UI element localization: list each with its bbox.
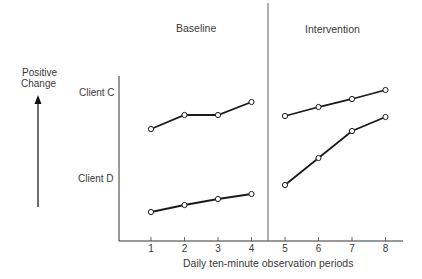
- data-point-marker: [282, 182, 287, 187]
- data-point-marker: [282, 113, 287, 118]
- series-line: [285, 117, 386, 185]
- data-point-marker: [182, 112, 187, 117]
- data-point-marker: [182, 202, 187, 207]
- x-tick-label: 7: [349, 243, 355, 254]
- data-point-marker: [349, 128, 354, 133]
- x-tick-label: 4: [249, 243, 255, 254]
- x-tick-label: 8: [383, 243, 389, 254]
- data-point-marker: [316, 104, 321, 109]
- x-tick-label: 1: [148, 243, 154, 254]
- data-point-marker: [215, 112, 220, 117]
- data-point-marker: [383, 87, 388, 92]
- x-tick-label: 2: [182, 243, 188, 254]
- arrow-up-icon: [35, 95, 42, 104]
- chart-plot-area: [0, 0, 422, 279]
- data-point-marker: [249, 191, 254, 196]
- data-point-marker: [148, 209, 153, 214]
- x-tick-label: 3: [215, 243, 221, 254]
- series-line: [151, 194, 252, 212]
- x-tick-label: 6: [316, 243, 322, 254]
- data-point-marker: [249, 99, 254, 104]
- data-point-marker: [316, 155, 321, 160]
- data-point-marker: [215, 196, 220, 201]
- series-line: [285, 90, 386, 116]
- series-line: [151, 102, 252, 129]
- x-tick-label: 5: [282, 243, 288, 254]
- x-axis-label: Daily ten-minute observation periods: [183, 257, 353, 269]
- data-point-marker: [148, 126, 153, 131]
- data-point-marker: [349, 96, 354, 101]
- data-point-marker: [383, 114, 388, 119]
